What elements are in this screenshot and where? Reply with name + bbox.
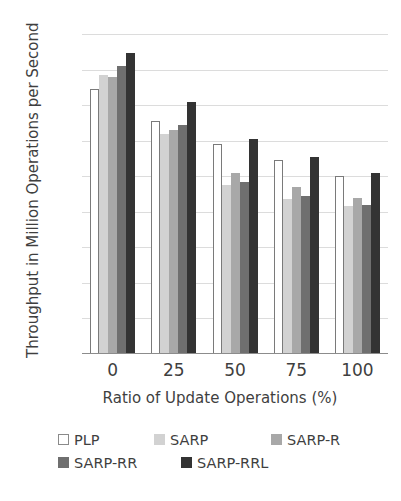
x-axis-tick-label: 100	[327, 360, 388, 380]
bar-group	[266, 34, 327, 354]
legend-label: SARP-R	[287, 432, 340, 448]
plot-area: 9876543210	[82, 34, 388, 354]
bar-plp-25[interactable]	[151, 121, 160, 354]
legend-swatch-icon	[154, 434, 165, 445]
bar-sarp-rrl-0[interactable]	[126, 53, 135, 355]
bar-groups	[82, 34, 388, 354]
bar-sarp-0[interactable]	[99, 75, 108, 354]
bar-group	[143, 34, 204, 354]
chart-legend: PLPSARPSARP-RSARP-RRSARP-RRL	[58, 428, 388, 474]
bar-chart-figure: Throughput in Million Operations per Sec…	[0, 0, 401, 501]
bar-plp-50[interactable]	[213, 144, 222, 354]
legend-item-sarp-rr[interactable]: SARP-RR	[58, 451, 181, 474]
bar-sarp-rr-50[interactable]	[240, 182, 249, 354]
bar-sarp-50[interactable]	[222, 185, 231, 354]
legend-swatch-icon	[58, 457, 69, 468]
bar-group	[204, 34, 265, 354]
bar-group	[327, 34, 388, 354]
bar-sarp-100[interactable]	[344, 206, 353, 354]
bar-plp-75[interactable]	[274, 160, 283, 354]
bar-sarp-rrl-100[interactable]	[371, 173, 380, 354]
x-axis-tick-labels: 0255075100	[82, 360, 388, 380]
bar-sarp-r-25[interactable]	[169, 130, 178, 354]
bar-sarp-r-0[interactable]	[108, 77, 117, 354]
legend-label: SARP	[170, 432, 208, 448]
legend-swatch-icon	[181, 457, 192, 468]
legend-label: SARP-RR	[74, 455, 137, 471]
bar-sarp-rr-75[interactable]	[301, 196, 310, 354]
bar-plp-0[interactable]	[90, 89, 99, 354]
bar-sarp-25[interactable]	[160, 134, 169, 354]
bar-sarp-r-100[interactable]	[353, 198, 362, 354]
legend-item-sarp-r[interactable]: SARP-R	[271, 428, 381, 451]
bar-group	[82, 34, 143, 354]
x-axis-tick-label: 75	[266, 360, 327, 380]
legend-swatch-icon	[271, 434, 282, 445]
bar-sarp-rrl-50[interactable]	[249, 139, 258, 354]
bar-plp-100[interactable]	[335, 176, 344, 354]
bar-sarp-rr-25[interactable]	[178, 125, 187, 354]
x-axis-tick-label: 25	[143, 360, 204, 380]
x-axis-line	[82, 353, 388, 354]
bar-sarp-rr-100[interactable]	[362, 205, 371, 354]
x-axis-tick-label: 50	[204, 360, 265, 380]
bar-sarp-r-50[interactable]	[231, 173, 240, 354]
legend-label: PLP	[74, 432, 100, 448]
bar-sarp-r-75[interactable]	[292, 187, 301, 354]
bar-sarp-75[interactable]	[283, 199, 292, 354]
x-axis-title: Ratio of Update Operations (%)	[50, 389, 390, 407]
legend-item-sarp-rrl[interactable]: SARP-RRL	[181, 451, 301, 474]
legend-swatch-icon	[58, 434, 69, 445]
bar-sarp-rrl-75[interactable]	[310, 157, 319, 354]
bar-sarp-rr-0[interactable]	[117, 66, 126, 354]
x-axis-tick-label: 0	[82, 360, 143, 380]
legend-item-sarp[interactable]: SARP	[154, 428, 271, 451]
legend-label: SARP-RRL	[197, 455, 268, 471]
y-axis-title: Throughput in Million Operations per Sec…	[24, 28, 42, 358]
legend-item-plp[interactable]: PLP	[58, 428, 154, 451]
bar-sarp-rrl-25[interactable]	[187, 102, 196, 354]
